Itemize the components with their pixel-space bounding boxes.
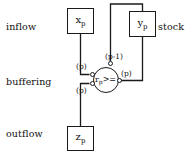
node-rp-threshold[interactable]: rp>= [93, 67, 119, 93]
edge-label-p-lower-left: (p) [76, 86, 87, 95]
diagram-canvas: inflow buffering outflow stock xp yp zp … [0, 0, 194, 156]
node-xp-subscript: p [81, 19, 85, 27]
port-upper-left-icon[interactable] [90, 72, 95, 77]
port-right-icon[interactable] [117, 78, 122, 83]
node-rp-comparator: >= [103, 75, 116, 84]
row-label-outflow: outflow [6, 128, 43, 139]
row-label-inflow: inflow [6, 21, 36, 32]
port-lower-left-icon[interactable] [90, 81, 95, 86]
node-yp-subscript: p [143, 22, 147, 30]
edge-label-p-right: (p) [121, 69, 132, 78]
node-zp-subscript: p [81, 137, 85, 145]
side-label-stock: stock [158, 21, 184, 32]
node-yp-label: yp [137, 18, 147, 31]
node-zp[interactable]: zp [67, 126, 94, 151]
edge-label-p-minus-1-top: (p-1) [105, 52, 123, 61]
node-zp-label: zp [76, 132, 86, 145]
edge-label-p-upper-left: (p) [76, 62, 87, 71]
row-label-buffering: buffering [6, 76, 52, 87]
node-xp[interactable]: xp [67, 8, 94, 34]
node-rp-label: rp>= [95, 76, 116, 85]
node-xp-label: xp [75, 15, 85, 28]
port-top-icon[interactable] [108, 61, 113, 66]
node-yp[interactable]: yp [129, 11, 156, 37]
